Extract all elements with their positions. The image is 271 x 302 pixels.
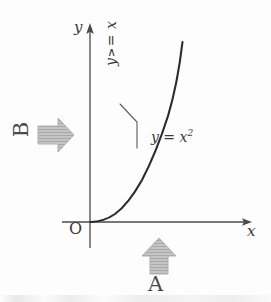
linear-label-leader-line (120, 104, 137, 148)
region-label-a: A (148, 274, 163, 295)
region-a-arrow (142, 238, 176, 274)
figure-canvas (0, 0, 271, 302)
region-label-b: B (11, 122, 32, 137)
linear-equation-label: y∧= x (104, 21, 118, 66)
parabola-equation-exponent: 2 (187, 128, 193, 138)
parabola-equation-label: y = x2 (151, 129, 193, 144)
scan-artifact-strip (0, 295, 271, 302)
region-b-arrow (38, 118, 74, 152)
math-figure: y x O y = x2 y∧= x B A (0, 0, 271, 302)
origin-label: O (69, 221, 82, 237)
x-axis-label: x (247, 224, 255, 239)
parabola-equation-base: y = x (151, 129, 187, 145)
y-axis-label: y (74, 20, 82, 35)
y-axis (86, 23, 94, 248)
linear-equation-rhs: = x (103, 21, 119, 47)
pointer-caret-icon: ∧ (106, 46, 117, 58)
